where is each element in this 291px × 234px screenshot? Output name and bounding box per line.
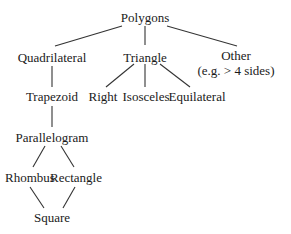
node-square: Square — [34, 210, 70, 225]
node-other: Other (e.g. > 4 sides) — [197, 48, 274, 78]
edge-rhombus-square — [30, 187, 44, 208]
node-other-label: Other — [197, 48, 274, 63]
node-quadrilateral: Quadrilateral — [18, 50, 87, 65]
node-right: Right — [89, 89, 118, 104]
node-other-sublabel: (e.g. > 4 sides) — [197, 63, 274, 78]
edge-parallelogram-rhombus — [33, 146, 45, 167]
edge-polygons-quadrilateral — [55, 26, 122, 46]
edge-parallelogram-rectangle — [61, 146, 74, 167]
node-polygons: Polygons — [121, 10, 169, 25]
node-parallelogram: Parallelogram — [16, 130, 89, 145]
node-trapezoid: Trapezoid — [26, 89, 78, 104]
polygon-hierarchy-diagram: Polygons Quadrilateral Triangle Other (e… — [0, 0, 291, 234]
edge-rectangle-square — [63, 187, 75, 208]
node-isosceles: Isosceles — [123, 89, 170, 104]
edge-triangle-equilateral — [160, 64, 190, 87]
edge-triangle-right — [106, 64, 134, 87]
edge-polygons-other — [167, 26, 237, 46]
node-equilateral: Equilateral — [168, 89, 225, 104]
edge-layer — [0, 0, 291, 234]
node-rhombus: Rhombus — [5, 170, 55, 185]
node-triangle: Triangle — [123, 50, 167, 65]
node-rectangle: Rectangle — [50, 170, 102, 185]
